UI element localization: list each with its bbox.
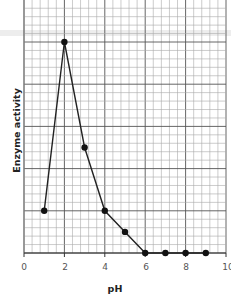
y-axis-label: Enzyme activity	[11, 81, 22, 181]
data-point	[122, 229, 128, 235]
data-line	[44, 42, 206, 253]
x-tick-8: 8	[183, 262, 189, 272]
x-tick-2: 2	[62, 262, 68, 272]
data-point	[162, 250, 168, 256]
x-tick-6: 6	[143, 262, 149, 272]
x-tick-10: 10	[222, 262, 231, 272]
x-tick-4: 4	[102, 262, 108, 272]
data-point	[61, 39, 67, 45]
x-axis-label: pH	[108, 283, 123, 294]
data-point	[182, 250, 188, 256]
data-point	[41, 208, 47, 214]
x-tick-0: 0	[21, 262, 27, 272]
data-point	[142, 250, 148, 256]
chart-plot	[0, 0, 231, 300]
data-point	[203, 250, 209, 256]
data-point	[81, 144, 87, 150]
data-point	[102, 208, 108, 214]
